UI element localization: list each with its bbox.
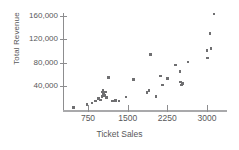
- data-point: [86, 103, 89, 106]
- data-point: [179, 70, 182, 73]
- data-point: [206, 49, 209, 52]
- data-point: [104, 91, 107, 94]
- data-point: [99, 99, 102, 102]
- data-point: [107, 76, 110, 79]
- data-point: [166, 77, 169, 80]
- y-axis-tick: [60, 63, 67, 64]
- x-axis-tick: [167, 105, 168, 112]
- data-point: [174, 64, 177, 67]
- data-point: [94, 100, 97, 103]
- data-point: [146, 91, 149, 94]
- data-point: [132, 78, 135, 81]
- data-point: [206, 57, 209, 60]
- x-axis-tick: [88, 105, 89, 112]
- y-axis-title: Total Revenue: [12, 0, 21, 79]
- y-axis-tick-label: 160,000: [29, 12, 58, 20]
- data-point: [213, 13, 216, 16]
- data-point: [149, 53, 152, 56]
- x-axis-tick-label: 1500: [108, 114, 148, 123]
- y-axis-tick: [60, 86, 67, 87]
- x-axis-tick: [207, 105, 208, 112]
- y-axis-tick-label: 80,000: [34, 59, 58, 67]
- y-axis-tick: [60, 16, 67, 17]
- data-point: [187, 61, 190, 64]
- data-point: [125, 96, 128, 99]
- data-point: [155, 95, 158, 98]
- scatter-plot: Total Revenue Ticket Sales 40,00080,0001…: [0, 0, 239, 150]
- data-point: [114, 99, 117, 102]
- data-point: [105, 96, 108, 99]
- y-axis-tick-label: 40,000: [34, 82, 58, 90]
- data-point: [161, 84, 164, 87]
- data-point: [209, 32, 212, 35]
- x-axis-title: Ticket Sales: [0, 129, 239, 139]
- y-axis-tick-label: 120,000: [29, 35, 58, 43]
- x-axis-tick: [128, 105, 129, 112]
- data-point: [72, 106, 75, 109]
- x-axis-tick-label: 750: [68, 114, 108, 123]
- data-point: [148, 89, 151, 92]
- data-point: [210, 47, 213, 50]
- data-point: [181, 82, 184, 85]
- y-axis-tick: [60, 39, 67, 40]
- data-point: [118, 100, 121, 103]
- x-axis-tick-label: 3000: [187, 114, 227, 123]
- data-point: [91, 102, 94, 105]
- x-axis-tick-label: 2250: [147, 114, 187, 123]
- data-point: [159, 75, 162, 78]
